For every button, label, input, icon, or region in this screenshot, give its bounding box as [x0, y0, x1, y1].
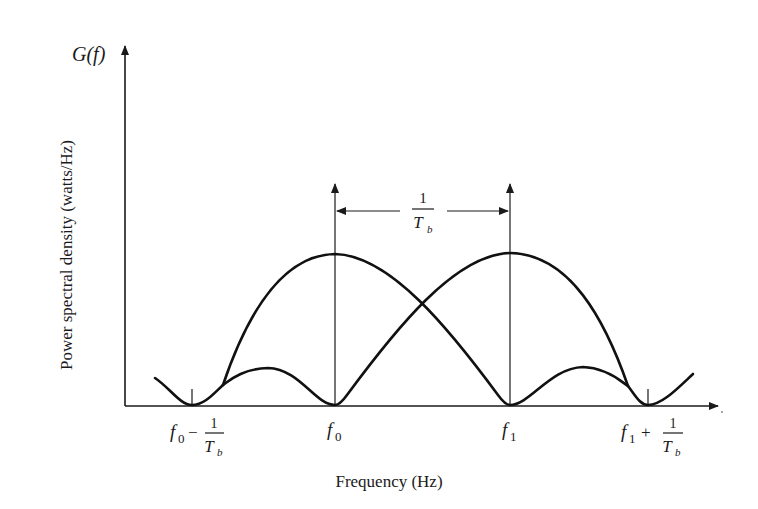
stray-dot — [721, 411, 723, 413]
svg-text:−: − — [188, 423, 198, 442]
spacing-label: 1 T b — [412, 190, 434, 235]
svg-text:1: 1 — [510, 429, 517, 444]
y-axis-label: Power spectral density (watts/Hz) — [57, 140, 76, 370]
tick-label-f0: f 0 — [327, 419, 342, 444]
spectrum-sidelobe-left — [155, 378, 223, 405]
svg-text:f: f — [621, 421, 629, 442]
svg-text:f: f — [327, 419, 335, 440]
svg-text:T: T — [204, 437, 215, 456]
svg-text:+: + — [641, 423, 651, 442]
svg-text:0: 0 — [178, 431, 185, 446]
spectrum-sidelobe-right — [628, 374, 693, 405]
tick-label-f0-minus: f 0 − 1 T b — [170, 416, 224, 458]
svg-text:T: T — [413, 213, 424, 232]
svg-text:f: f — [170, 421, 178, 442]
tick-label-f1: f 1 — [502, 419, 517, 444]
svg-text:1: 1 — [419, 190, 427, 206]
svg-text:f: f — [502, 419, 510, 440]
svg-text:1: 1 — [670, 416, 677, 431]
svg-text:T: T — [662, 437, 673, 456]
svg-text:1: 1 — [211, 416, 218, 431]
x-axis-label: Frequency (Hz) — [335, 472, 442, 491]
svg-text:b: b — [675, 446, 681, 458]
tick-label-f1-plus: f 1 + 1 T b — [621, 416, 683, 458]
svg-text:b: b — [217, 446, 223, 458]
y-axis-symbol: G(f) — [72, 43, 106, 66]
svg-text:b: b — [427, 223, 433, 235]
svg-text:1: 1 — [629, 431, 636, 446]
svg-text:0: 0 — [335, 429, 342, 444]
psd-diagram: 1 T b G(f) Power spectral density (watts… — [0, 0, 758, 509]
